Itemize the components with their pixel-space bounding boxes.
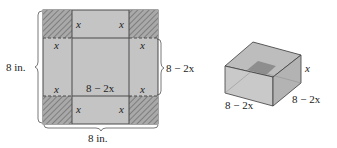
corner-cut-top-left [43,10,72,38]
brace-left [35,11,42,123]
label-x-bottom-right-flap: x [118,103,124,115]
label-inner-width-center: 8 − 2x [86,82,115,94]
label-x-left-lower: x [53,83,59,95]
diagram-canvas: x x x x x x x x 8 − 2x 8 in. 8 − 2x 8 in… [0,0,337,148]
flat-sheet: x x x x x x x x 8 − 2x 8 in. 8 − 2x 8 in… [6,10,195,144]
folded-box: x 8 − 2x 8 − 2x [225,42,321,111]
label-side-bottom: 8 in. [88,132,108,144]
label-x-right-upper: x [139,39,145,51]
corner-cut-bottom-left [43,96,72,124]
label-box-height: x [304,62,310,74]
label-x-left-upper: x [53,39,59,51]
label-x-top-right-flap: x [118,18,124,30]
label-x-right-lower: x [139,83,145,95]
label-side-left: 8 in. [6,61,26,73]
corner-cut-top-right [129,10,158,38]
brace-bottom [44,125,158,131]
label-inner-side-right: 8 − 2x [166,62,195,74]
label-box-front-width: 8 − 2x [225,99,254,111]
label-x-bottom-left-flap: x [75,103,81,115]
corner-cut-bottom-right [129,96,158,124]
label-box-right-depth: 8 − 2x [292,93,321,105]
label-x-top-left-flap: x [75,18,81,30]
